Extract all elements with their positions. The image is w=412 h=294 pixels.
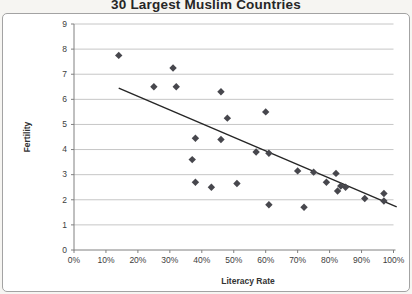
data-point	[233, 180, 240, 187]
y-tick-label: 6	[62, 94, 67, 104]
x-tick-label: 40%	[193, 255, 210, 265]
x-tick-label: 0%	[68, 255, 81, 265]
scatter-plot: 01234567890%10%20%30%40%50%60%70%80%90%1…	[0, 0, 412, 294]
y-tick-label: 2	[62, 195, 67, 205]
x-tick-label: 90%	[353, 255, 370, 265]
data-point	[300, 204, 307, 211]
x-tick-label: 30%	[161, 255, 178, 265]
x-tick-label: 100%	[383, 255, 405, 265]
data-point	[323, 179, 330, 186]
data-point	[217, 136, 224, 143]
data-point	[150, 83, 157, 90]
y-axis-label: Fertility	[22, 121, 32, 152]
data-point	[265, 201, 272, 208]
data-point	[173, 83, 180, 90]
data-point	[189, 156, 196, 163]
x-axis-label: Literacy Rate	[221, 276, 275, 286]
x-tick-label: 80%	[321, 255, 338, 265]
data-point	[217, 88, 224, 95]
data-point	[294, 167, 301, 174]
y-tick-label: 5	[62, 119, 67, 129]
data-point	[192, 179, 199, 186]
y-tick-label: 4	[62, 144, 67, 154]
data-point	[208, 184, 215, 191]
x-tick-label: 20%	[129, 255, 146, 265]
data-point	[380, 190, 387, 197]
y-tick-label: 0	[62, 245, 67, 255]
x-tick-label: 60%	[257, 255, 274, 265]
data-point	[224, 114, 231, 121]
data-point	[192, 135, 199, 142]
y-tick-label: 9	[62, 19, 67, 29]
data-point	[332, 170, 339, 177]
data-point	[115, 52, 122, 59]
x-tick-label: 50%	[225, 255, 242, 265]
trendline	[119, 88, 397, 207]
y-tick-label: 8	[62, 44, 67, 54]
y-tick-label: 7	[62, 69, 67, 79]
chart-page: 30 Largest Muslim Countries 01234567890%…	[0, 0, 412, 294]
data-point	[262, 108, 269, 115]
y-tick-label: 3	[62, 169, 67, 179]
y-tick-label: 1	[62, 220, 67, 230]
data-point	[169, 64, 176, 71]
data-point	[380, 197, 387, 204]
data-point	[361, 195, 368, 202]
x-tick-label: 70%	[289, 255, 306, 265]
x-tick-label: 10%	[97, 255, 114, 265]
